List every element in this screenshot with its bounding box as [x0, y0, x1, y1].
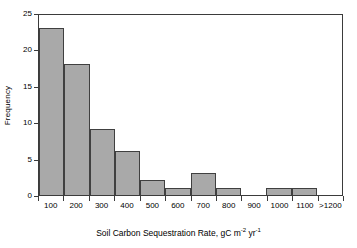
histogram-bar[interactable]: [191, 173, 216, 195]
histogram-bar[interactable]: [165, 188, 190, 195]
bar-slot: [115, 15, 140, 195]
y-axis-tick-label: 10: [23, 119, 32, 127]
x-axis-tick-label: 800: [216, 201, 241, 211]
x-axis-tick-mark: [343, 196, 344, 201]
x-axis: 10020030040050060070080090010001100>1200: [38, 196, 343, 218]
x-axis-title-main: Soil Carbon Sequestration Rate, gC m: [96, 228, 241, 238]
x-axis-tick-label: 200: [63, 201, 88, 211]
x-axis-tick-label: 600: [165, 201, 190, 211]
x-axis-tick-label: 1000: [267, 201, 292, 211]
histogram-bar[interactable]: [64, 64, 89, 195]
bar-slot: [216, 15, 241, 195]
x-axis-tick-label: 700: [191, 201, 216, 211]
x-axis-tick-label: 500: [140, 201, 165, 211]
bar-slot: [292, 15, 317, 195]
histogram-bar[interactable]: [216, 188, 241, 195]
bar-slot: [90, 15, 115, 195]
x-axis-tick-label: 300: [89, 201, 114, 211]
x-axis-labels: 10020030040050060070080090010001100>1200: [38, 201, 343, 211]
bar-slot: [266, 15, 291, 195]
bar-slot: [165, 15, 190, 195]
histogram-bar[interactable]: [39, 28, 64, 195]
y-axis-tick-label: 15: [23, 83, 32, 91]
x-axis-title: Soil Carbon Sequestration Rate, gC m-2 y…: [0, 228, 357, 238]
x-axis-tick-label: >1200: [318, 201, 343, 211]
y-axis-tick-label: 20: [23, 46, 32, 54]
x-axis-tick-label: 100: [38, 201, 63, 211]
bar-slot: [241, 15, 266, 195]
histogram-bar[interactable]: [140, 180, 165, 195]
y-axis-tick-label: 25: [23, 10, 32, 18]
histogram-bar[interactable]: [266, 188, 291, 195]
histogram-bar[interactable]: [115, 151, 140, 195]
y-axis-tick-label: 5: [28, 156, 32, 164]
histogram-bar[interactable]: [90, 129, 115, 195]
bar-slot: [64, 15, 89, 195]
bar-slot: [191, 15, 216, 195]
x-axis-tick-label: 1100: [292, 201, 317, 211]
y-axis-tick-label: 0: [28, 192, 32, 200]
x-axis-tick-label: 400: [114, 201, 139, 211]
bars-container: [39, 15, 342, 195]
y-axis: 0510152025: [0, 14, 38, 196]
plot-area: [38, 14, 343, 196]
bar-slot: [317, 15, 342, 195]
bar-slot: [140, 15, 165, 195]
histogram-bar[interactable]: [292, 188, 317, 195]
histogram-figure: Frequency 0510152025 1002003004005006007…: [0, 0, 357, 248]
x-axis-tick-label: 900: [241, 201, 266, 211]
x-axis-title-sup2: -1: [256, 227, 261, 233]
bar-slot: [39, 15, 64, 195]
x-axis-title-mid: yr: [246, 228, 255, 238]
